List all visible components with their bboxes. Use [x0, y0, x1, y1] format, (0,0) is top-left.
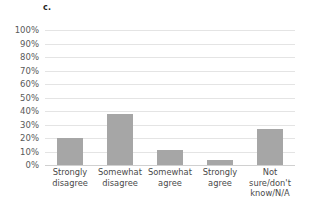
- bar[interactable]: [157, 150, 183, 165]
- category-label-line: disagree: [96, 178, 144, 189]
- category-label-line: disagree: [46, 178, 94, 189]
- bar-slot: [95, 30, 145, 165]
- x-axis: StronglydisagreeSomewhatdisagreeSomewhat…: [45, 167, 295, 199]
- bar[interactable]: [207, 160, 233, 165]
- category-label-line: Somewhat: [146, 167, 194, 178]
- y-axis-tick-label: 80%: [0, 53, 39, 62]
- category-label-line: agree: [146, 178, 194, 189]
- bar-series: [45, 30, 295, 165]
- bar-chart: c. 100%90%80%70%60%50%40%30%20%10%0% Str…: [0, 0, 313, 207]
- x-axis-category-label: Not sure/don'tknow/N/A: [245, 167, 295, 199]
- x-axis-category-label: Somewhatdisagree: [95, 167, 145, 199]
- bar[interactable]: [107, 114, 133, 165]
- bar-slot: [195, 30, 245, 165]
- chart-title: c.: [43, 3, 51, 13]
- y-axis-tick-label: 60%: [0, 80, 39, 89]
- category-label-line: Strongly: [196, 167, 244, 178]
- y-axis-tick-label: 90%: [0, 39, 39, 48]
- y-axis: 100%90%80%70%60%50%40%30%20%10%0%: [0, 30, 42, 165]
- y-axis-tick-label: 20%: [0, 134, 39, 143]
- y-axis-tick-label: 100%: [0, 26, 39, 35]
- bar[interactable]: [57, 138, 83, 165]
- category-label-line: agree: [196, 178, 244, 189]
- y-axis-tick-label: 10%: [0, 147, 39, 156]
- category-label-line: Somewhat: [96, 167, 144, 178]
- y-axis-tick-label: 70%: [0, 66, 39, 75]
- x-axis-category-label: Somewhatagree: [145, 167, 195, 199]
- bar-slot: [45, 30, 95, 165]
- category-label-line: Strongly: [46, 167, 94, 178]
- bar-slot: [245, 30, 295, 165]
- y-axis-tick-label: 30%: [0, 120, 39, 129]
- y-axis-tick-label: 50%: [0, 93, 39, 102]
- x-axis-category-label: Stronglyagree: [195, 167, 245, 199]
- bar[interactable]: [257, 129, 283, 165]
- category-label-line: know/N/A: [246, 188, 294, 199]
- x-axis-category-label: Stronglydisagree: [45, 167, 95, 199]
- bar-slot: [145, 30, 195, 165]
- category-label-line: Not sure/don't: [246, 167, 294, 188]
- y-axis-tick-label: 0%: [0, 161, 39, 170]
- axis-baseline: [45, 165, 295, 166]
- y-axis-tick-label: 40%: [0, 107, 39, 116]
